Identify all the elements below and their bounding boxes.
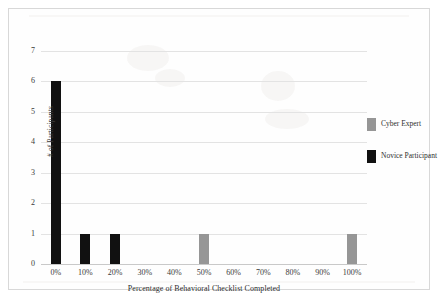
bar-expert-50pct[interactable] (199, 234, 209, 264)
plot-area (41, 51, 367, 264)
y-tick-label: 5 (13, 108, 35, 116)
x-axis-title: Percentage of Behavioral Checklist Compl… (41, 284, 367, 293)
gridline-y-2 (41, 203, 367, 204)
y-tick-label: 7 (13, 47, 35, 55)
scan-artifact (29, 15, 409, 17)
x-tick-label: 100% (332, 268, 372, 277)
legend-swatch-icon (367, 118, 376, 131)
y-axis-title: # of Participants (46, 87, 55, 177)
legend-entry-cyber-expert[interactable]: Cyber Expert (367, 117, 421, 131)
scan-artifact (23, 281, 415, 283)
bar-novice-10pct[interactable] (80, 234, 90, 264)
gridline-y-7 (41, 51, 367, 52)
gridline-y-0 (41, 264, 367, 265)
gridline-y-6 (41, 81, 367, 82)
gridline-y-5 (41, 112, 367, 113)
y-tick-label: 0 (13, 260, 35, 268)
bar-novice-20pct[interactable] (110, 234, 120, 264)
legend-label: Novice Participant (381, 152, 437, 160)
legend-entry-novice-participant[interactable]: Novice Participant (367, 149, 437, 163)
y-tick-label: 3 (13, 169, 35, 177)
legend-label: Cyber Expert (381, 120, 421, 128)
y-tick-label: 6 (13, 77, 35, 85)
gridline-y-4 (41, 142, 367, 143)
bar-expert-100pct[interactable] (347, 234, 357, 264)
legend-swatch-icon (367, 150, 376, 163)
y-tick-label: 2 (13, 199, 35, 207)
y-tick-label: 1 (13, 230, 35, 238)
y-tick-label: 4 (13, 138, 35, 146)
gridline-y-3 (41, 173, 367, 174)
figure-frame: # of Participants Percentage of Behavior… (8, 8, 430, 290)
